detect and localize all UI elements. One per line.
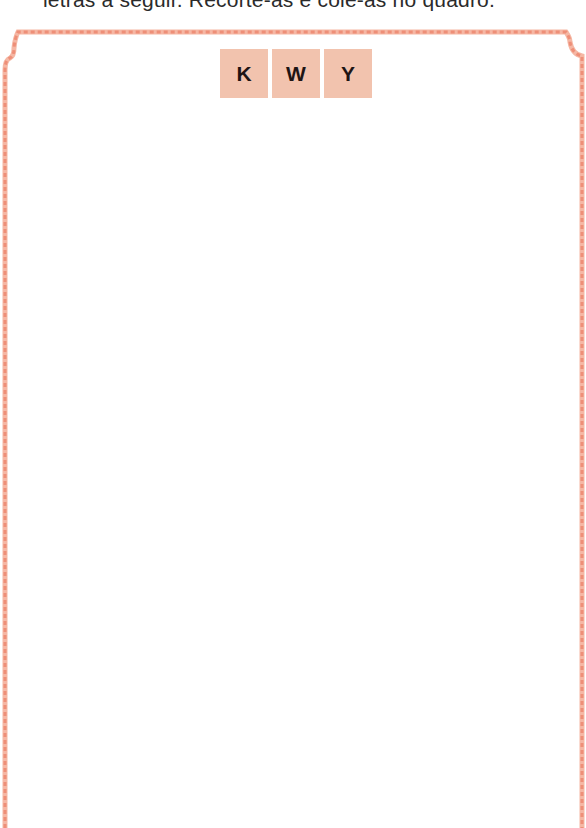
instruction-text: letras a seguir. Recorte-as e cole-as no… — [43, 0, 495, 12]
paste-area-frame — [0, 28, 586, 828]
letter-tile-k[interactable]: K — [220, 49, 268, 98]
letter-tile-w[interactable]: W — [272, 49, 320, 98]
dashed-border — [0, 28, 586, 828]
letter-tiles: K W Y — [220, 49, 372, 98]
letter-tile-y[interactable]: Y — [324, 49, 372, 98]
